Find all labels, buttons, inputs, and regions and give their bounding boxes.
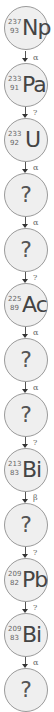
decay-mode-label: α xyxy=(33,54,38,62)
atomic-number: 93 xyxy=(10,28,19,35)
atomic-number: 89 xyxy=(10,305,19,312)
nuclide-node-np237: 237 93 Np xyxy=(4,6,48,50)
element-symbol: U xyxy=(25,128,40,152)
unknown-nuclide-node: ? xyxy=(4,393,48,437)
unknown-nuclide-node: ? xyxy=(4,338,48,382)
unknown-label: ? xyxy=(5,512,47,538)
unknown-nuclide-node: ? xyxy=(4,228,48,272)
unknown-label: ? xyxy=(5,347,47,373)
unknown-nuclide-node: ? xyxy=(4,503,48,547)
decay-mode-label: ? xyxy=(33,604,37,612)
nuclide-node-ac225: 225 89 Ac xyxy=(4,283,48,327)
element-symbol: Bi xyxy=(22,458,41,482)
decay-mode-label: ? xyxy=(33,274,37,282)
decay-mode-label: α xyxy=(33,329,38,337)
mass-number: 225 xyxy=(8,296,21,303)
atomic-number: 92 xyxy=(10,140,19,147)
mass-number: 209 xyxy=(8,626,21,633)
element-symbol: Bi xyxy=(22,623,41,647)
atomic-number: 91 xyxy=(10,85,19,92)
atomic-number: 83 xyxy=(10,635,19,642)
mass-number: 233 xyxy=(8,131,21,138)
element-symbol: Pb xyxy=(22,568,47,592)
mass-number: 213 xyxy=(8,461,21,468)
unknown-label: ? xyxy=(5,182,47,208)
nuclide-node-u233: 233 92 U xyxy=(4,118,48,162)
decay-mode-label: β xyxy=(33,494,38,502)
decay-mode-label: ? xyxy=(33,549,37,557)
nuclide-node-pb209: 209 82 Pb xyxy=(4,558,48,602)
decay-mode-label: ? xyxy=(33,439,37,447)
atomic-number: 83 xyxy=(10,470,19,477)
decay-mode-label: α xyxy=(33,659,38,667)
mass-number: 209 xyxy=(8,571,21,578)
element-symbol: Pa xyxy=(22,73,46,97)
element-symbol: Ac xyxy=(22,293,47,317)
unknown-nuclide-node: ? xyxy=(4,668,48,712)
decay-mode-label: ? xyxy=(33,109,37,117)
mass-number: 237 xyxy=(8,19,21,26)
decay-mode-label: α xyxy=(33,384,38,392)
mass-number: 233 xyxy=(8,76,21,83)
unknown-label: ? xyxy=(5,237,47,263)
atomic-number: 82 xyxy=(10,580,19,587)
nuclide-node-bi209: 209 83 Bi xyxy=(4,613,48,657)
unknown-label: ? xyxy=(5,402,47,428)
nuclide-node-pa233: 233 91 Pa xyxy=(4,63,48,107)
nuclide-node-bi213: 213 83 Bi xyxy=(4,448,48,492)
decay-mode-label: α xyxy=(33,219,38,227)
arrowhead-icon xyxy=(22,58,28,62)
unknown-nuclide-node: ? xyxy=(4,173,48,217)
element-symbol: Np xyxy=(22,16,50,40)
unknown-label: ? xyxy=(5,677,47,703)
decay-mode-label: α xyxy=(33,164,38,172)
